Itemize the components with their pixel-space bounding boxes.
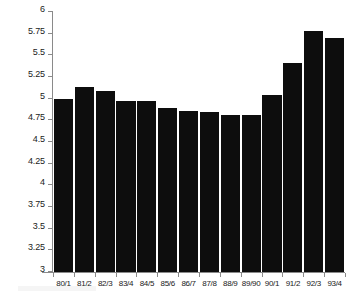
bar [116, 101, 135, 272]
y-tick-label: 6 [40, 5, 45, 14]
y-tick-mark [48, 184, 53, 185]
x-tick-mark [178, 273, 179, 277]
y-tick-label: 4.75 [28, 113, 45, 122]
bar [304, 31, 323, 272]
y-tick-mark [48, 76, 53, 77]
x-tick-mark [53, 273, 54, 277]
bar [75, 87, 94, 272]
bar [96, 91, 115, 272]
y-tick-label: 3 [40, 265, 45, 274]
bar [262, 95, 281, 272]
y-tick-mark [48, 119, 53, 120]
y-tick-mark [48, 11, 53, 12]
y-tick-mark [48, 206, 53, 207]
x-tick-mark [116, 273, 117, 277]
bar [54, 99, 73, 272]
x-tick-mark [282, 273, 283, 277]
x-tick-label: 87/8 [202, 279, 216, 288]
x-tick-mark [303, 273, 304, 277]
bar [221, 115, 240, 272]
bar [179, 111, 198, 272]
y-tick-label: 3.25 [28, 243, 45, 252]
x-tick-mark [324, 273, 325, 277]
y-tick-mark [48, 271, 53, 272]
x-tick-label: 86/7 [181, 279, 195, 288]
y-tick-label: 5.5 [33, 48, 45, 57]
x-tick-mark [74, 273, 75, 277]
y-tick-mark [48, 33, 53, 34]
x-tick-mark [241, 273, 242, 277]
x-tick-label: 91/2 [286, 279, 300, 288]
x-tick-label: 85/6 [161, 279, 175, 288]
y-tick-mark [48, 228, 53, 229]
y-tick-label: 4.5 [33, 135, 45, 144]
y-tick-mark [48, 249, 53, 250]
x-tick-label: 92/3 [307, 279, 321, 288]
scan-artifact [18, 286, 96, 291]
x-tick-mark [136, 273, 137, 277]
x-tick-mark [262, 273, 263, 277]
y-tick-label: 3.75 [28, 200, 45, 209]
bar [158, 108, 177, 272]
y-tick-label: 4.25 [28, 157, 45, 166]
y-tick-label: 4 [40, 178, 45, 187]
y-tick-label: 3.5 [33, 222, 45, 231]
y-tick-mark [48, 163, 53, 164]
bar [242, 115, 261, 272]
bar [283, 63, 302, 272]
bars-layer [0, 0, 357, 296]
x-tick-label: 84/5 [140, 279, 154, 288]
x-tick-label: 89/90 [242, 279, 261, 288]
x-tick-mark [199, 273, 200, 277]
x-tick-label: 83/4 [119, 279, 133, 288]
y-tick-label: 5.25 [28, 70, 45, 79]
bar [137, 101, 156, 272]
x-tick-mark [220, 273, 221, 277]
bar [200, 112, 219, 272]
x-tick-label: 90/1 [265, 279, 279, 288]
x-tick-mark [345, 273, 346, 277]
y-tick-mark [48, 98, 53, 99]
x-tick-label: 82/3 [98, 279, 112, 288]
y-tick-label: 5.75 [28, 27, 45, 36]
y-tick-mark [48, 141, 53, 142]
x-tick-mark [157, 273, 158, 277]
y-tick-mark [48, 54, 53, 55]
x-tick-label: 93/4 [327, 279, 341, 288]
y-tick-label: 5 [40, 92, 45, 101]
x-tick-label: 88/9 [223, 279, 237, 288]
bar-chart: 33.253.53.7544.254.54.7555.255.55.756 80… [0, 0, 357, 296]
x-tick-mark [95, 273, 96, 277]
bar [325, 38, 344, 272]
